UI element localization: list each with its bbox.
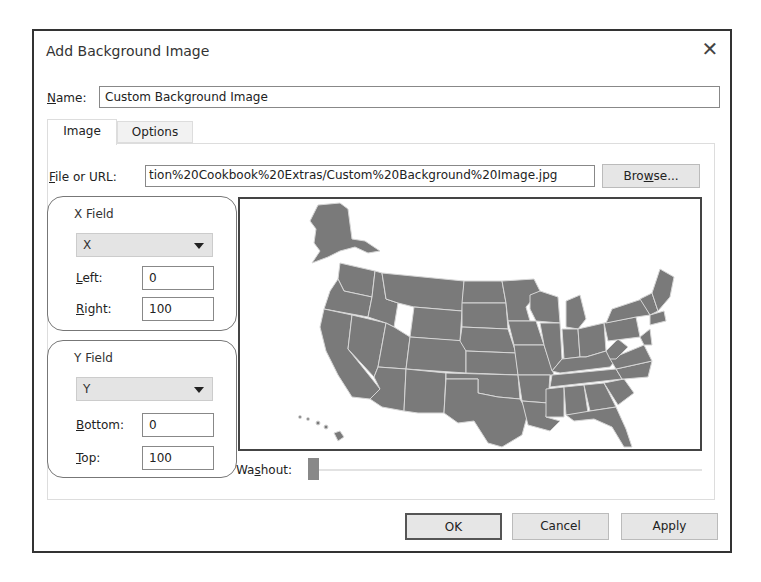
washout-label-post: hout: (261, 463, 292, 477)
x-field-group: X Field X Left: Right: (47, 196, 237, 331)
browse-text-pre: Bro (623, 169, 643, 183)
close-icon[interactable]: ✕ (700, 39, 720, 59)
us-map-image (240, 199, 700, 449)
file-url-input[interactable]: tion%20Cookbook%20Extras/Custom%20Backgr… (145, 165, 595, 187)
x-field-title: X Field (74, 207, 114, 221)
right-label-text: ight: (84, 302, 111, 316)
name-label-accel: N (47, 91, 56, 105)
y-field-selected: Y (83, 382, 90, 396)
tab-image[interactable]: Image (47, 119, 117, 145)
bottom-label-text: ottom: (84, 418, 124, 432)
chevron-down-icon (194, 243, 204, 249)
bottom-label: Bottom: (76, 418, 124, 432)
left-input[interactable] (142, 266, 214, 290)
left-label: Left: (76, 271, 103, 285)
browse-text-post: se... (654, 169, 679, 183)
left-label-text: eft: (82, 271, 102, 285)
file-url-value: tion%20Cookbook%20Extras/Custom%20Backgr… (149, 168, 557, 182)
browse-text-accel: w (644, 169, 654, 183)
washout-label: Washout: (236, 463, 292, 477)
image-preview (238, 197, 702, 451)
washout-slider-thumb[interactable] (308, 458, 319, 480)
dialog-title: Add Background Image (46, 43, 209, 59)
bottom-label-accel: B (76, 418, 84, 432)
x-field-dropdown[interactable]: X (76, 233, 213, 257)
y-field-dropdown[interactable]: Y (76, 377, 213, 401)
bottom-input[interactable] (142, 413, 214, 437)
right-input[interactable] (142, 297, 214, 321)
name-label-text: ame: (56, 91, 86, 105)
file-label-text: ile or URL: (55, 170, 117, 184)
top-label: Top: (76, 451, 100, 465)
file-url-label: File or URL: (49, 170, 117, 184)
tab-options[interactable]: Options (117, 121, 193, 143)
y-field-group: Y Field Y Bottom: Top: (47, 340, 237, 478)
add-background-image-dialog: Add Background Image ✕ Name: Image Optio… (32, 29, 732, 553)
y-field-title: Y Field (74, 351, 113, 365)
name-input[interactable] (99, 86, 720, 108)
chevron-down-icon (194, 387, 204, 393)
top-input[interactable] (142, 446, 214, 470)
x-field-selected: X (83, 238, 91, 252)
top-label-text: op: (81, 451, 100, 465)
washout-label-pre: Wa (236, 463, 254, 477)
right-label: Right: (76, 302, 112, 316)
washout-slider-track[interactable] (314, 469, 702, 471)
cancel-button[interactable]: Cancel (512, 513, 609, 540)
name-label: Name: (47, 91, 86, 105)
apply-button[interactable]: Apply (621, 513, 718, 540)
ok-button[interactable]: OK (405, 513, 502, 540)
browse-button[interactable]: Browse... (602, 164, 700, 188)
